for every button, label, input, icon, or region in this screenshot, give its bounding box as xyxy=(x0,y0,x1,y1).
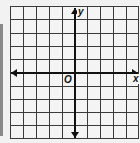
y-axis-label: y xyxy=(77,7,85,17)
y-axis xyxy=(74,8,76,138)
arrow-down-icon xyxy=(71,132,79,138)
coordinate-grid: y x O xyxy=(10,6,139,139)
grid-line-horizontal xyxy=(10,138,139,139)
page-edge-bar xyxy=(0,24,3,136)
arrow-left-icon xyxy=(11,69,17,77)
x-axis-label: x xyxy=(132,74,140,84)
origin-label: O xyxy=(63,75,73,85)
